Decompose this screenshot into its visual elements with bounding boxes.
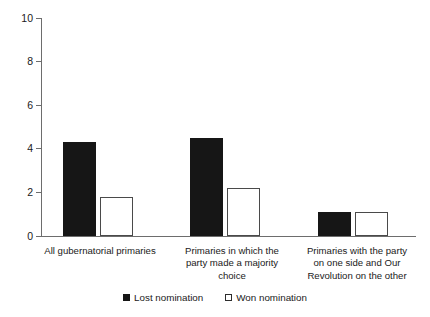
legend-label-won: Won nomination [236,292,307,303]
y-tick-label-6: 6 [0,100,33,110]
bar-lost-2 [318,212,351,236]
y-tick-label-8: 8 [0,56,33,66]
bar-lost-0 [63,142,96,236]
category-label-1-line-1: party made a majority [162,257,302,269]
category-label-0: All gubernatorial primaries [20,245,180,257]
bar-won-2 [355,212,388,236]
y-tick-label-10: 10 [0,13,33,23]
bar-lost-1 [190,138,223,236]
y-tick-label-4: 4 [0,143,33,153]
legend-swatch-outline-square-icon [225,294,232,301]
category-label-1-line-0: Primaries in which the [162,245,302,257]
legend-swatch-filled-square-icon [123,294,130,301]
chart-legend: Lost nomination Won nomination [0,292,430,303]
plot-area [41,18,415,236]
legend-item-won: Won nomination [225,292,307,303]
legend-label-lost: Lost nomination [134,292,203,303]
x-axis-line [41,236,416,237]
bar-chart: 10 8 6 4 2 0 All gubernatorial primaries… [0,0,430,317]
category-label-2: Primaries with the party on one side and… [287,245,427,282]
category-label-1: Primaries in which the party made a majo… [162,245,302,282]
bar-won-1 [227,188,260,236]
y-tick-label-0: 0 [0,231,33,241]
category-label-1-line-2: choice [162,270,302,282]
y-tick-label-2: 2 [0,187,33,197]
y-tick-0 [36,236,41,237]
bar-won-0 [100,197,133,236]
category-label-2-line-0: Primaries with the party [287,245,427,257]
category-label-2-line-1: on one side and Our [287,257,427,269]
legend-item-lost: Lost nomination [123,292,203,303]
category-label-0-line-0: All gubernatorial primaries [20,245,180,257]
category-label-2-line-2: Revolution on the other [287,270,427,282]
